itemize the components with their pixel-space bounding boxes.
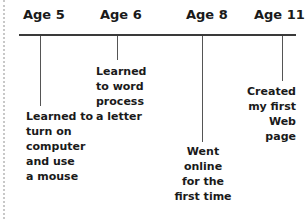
event-line: for the <box>170 174 236 189</box>
event-line: a letter <box>96 109 146 124</box>
tick-age-11 <box>282 36 283 81</box>
event-text-age-11: Created my first Web page <box>236 84 296 144</box>
event-line: and use <box>26 154 93 169</box>
event-text-age-6: Learned to word process a letter <box>96 64 146 124</box>
event-line: process <box>96 94 146 109</box>
event-line: computer <box>26 139 93 154</box>
page-border-dotted <box>3 0 5 219</box>
event-line: Created <box>236 84 296 99</box>
event-text-age-5: Learned to turn on computer and use a mo… <box>26 109 93 184</box>
tick-age-8 <box>202 36 203 142</box>
event-line: Web page <box>236 114 296 144</box>
event-line: Learned <box>96 64 146 79</box>
age-label-8: Age 8 <box>186 7 228 22</box>
event-line: turn on <box>26 124 93 139</box>
event-line: Went online <box>170 144 236 174</box>
tick-age-6 <box>117 36 118 60</box>
age-label-11: Age 11 <box>254 7 305 22</box>
event-line: my first <box>236 99 296 114</box>
event-line: to word <box>96 79 146 94</box>
event-line: Learned to <box>26 109 93 124</box>
timeline-axis <box>19 34 296 36</box>
age-label-6: Age 6 <box>100 7 142 22</box>
age-label-5: Age 5 <box>23 7 65 22</box>
event-text-age-8: Went online for the first time <box>170 144 236 204</box>
event-line: first time <box>170 189 236 204</box>
tick-age-5 <box>40 36 41 106</box>
event-line: a mouse <box>26 169 93 184</box>
